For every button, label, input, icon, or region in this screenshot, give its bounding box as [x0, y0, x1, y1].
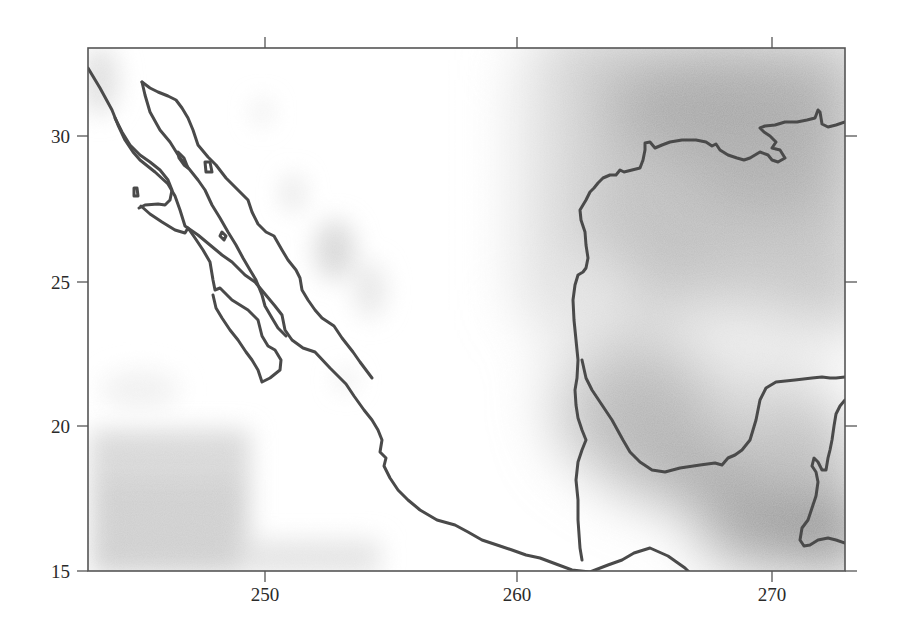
y-tick-label-30: 30 [51, 126, 70, 147]
map-figure: 250 260 270 15 20 25 30 [0, 0, 901, 637]
y-tick-label-15: 15 [51, 561, 70, 582]
x-tick-label-250: 250 [251, 584, 280, 605]
x-tick-label-270: 270 [758, 584, 787, 605]
y-tick-label-25: 25 [51, 272, 70, 293]
x-tick-label-260: 260 [503, 584, 532, 605]
island-cedros [134, 188, 138, 196]
field-shading [82, 30, 870, 575]
y-axis-labels: 15 20 25 30 [51, 126, 70, 582]
x-axis-labels: 250 260 270 [251, 584, 787, 605]
y-tick-label-20: 20 [51, 416, 70, 437]
